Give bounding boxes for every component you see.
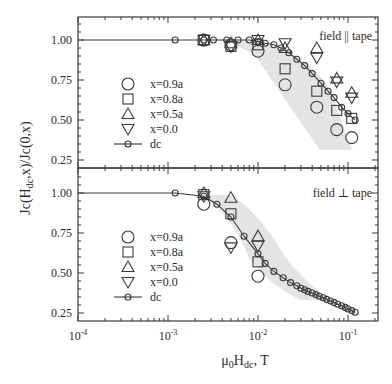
legend-item: dc [114,137,161,151]
y-tick-label: 1.00 [51,33,72,47]
y-tick-label: 0.50 [51,113,72,127]
axis-ticks [78,17,378,321]
legend-item: x=0.0 [122,122,178,136]
legend-item: x=0.8a [123,245,184,259]
legend-item: x=0.9a [122,230,184,244]
y-axis-label: Jc(Hdc,x)/Jc(0,x) [18,121,35,215]
shaded-bands [200,40,352,300]
x-tick-labels: 10-410-310-210-1 [69,328,358,343]
legend-label: x=0.9a [150,230,184,244]
legend-label: x=0.8a [150,245,184,259]
legend-item: dc [114,290,161,304]
y-tick-label: 0.75 [51,73,72,87]
y-tick-label: 0.50 [51,266,72,280]
legend-label: x=0.5a [150,260,184,274]
legend-item: x=0.0 [122,275,178,289]
legend-label: x=0.0 [150,122,178,136]
y-tick-label: 0.25 [51,306,72,320]
x-tick-label: 10-1 [339,328,358,343]
legend-label: dc [150,137,161,151]
legend-bottom: x=0.9ax=0.8ax=0.5ax=0.0dc [114,230,184,304]
chart-figure: x=0.9ax=0.8ax=0.5ax=0.0dc x=0.9ax=0.8ax=… [0,0,392,384]
x-tick-label: 10-2 [249,328,268,343]
legend-item: x=0.8a [123,92,184,106]
annotation-field-perpendicular: field ⊥ tape [313,186,372,200]
x-axis-label: μ0Hdc, T [221,353,269,370]
legend-item: x=0.5a [122,260,184,274]
y-tick-label: 0.75 [51,226,72,240]
legend-item: x=0.5a [122,107,184,121]
y-tick-label: 0.25 [51,153,72,167]
x-tick-label: 10-4 [69,328,88,343]
legend-label: x=0.5a [150,107,184,121]
legend-label: x=0.8a [150,92,184,106]
series-dc [78,190,358,315]
legend-label: x=0.0 [150,275,178,289]
y-tick-label: 1.00 [51,186,72,200]
plot-frames [78,17,378,321]
legend-top: x=0.9ax=0.8ax=0.5ax=0.0dc [114,77,184,151]
y-tick-labels: 0.250.500.751.000.250.500.751.00 [51,33,72,320]
legend-label: x=0.9a [150,77,184,91]
legend-label: dc [150,290,161,304]
shaded-band-bottom [200,195,330,300]
legend-item: x=0.9a [122,77,184,91]
annotation-field-parallel: field || tape [319,29,372,43]
x-tick-label: 10-3 [159,328,178,343]
